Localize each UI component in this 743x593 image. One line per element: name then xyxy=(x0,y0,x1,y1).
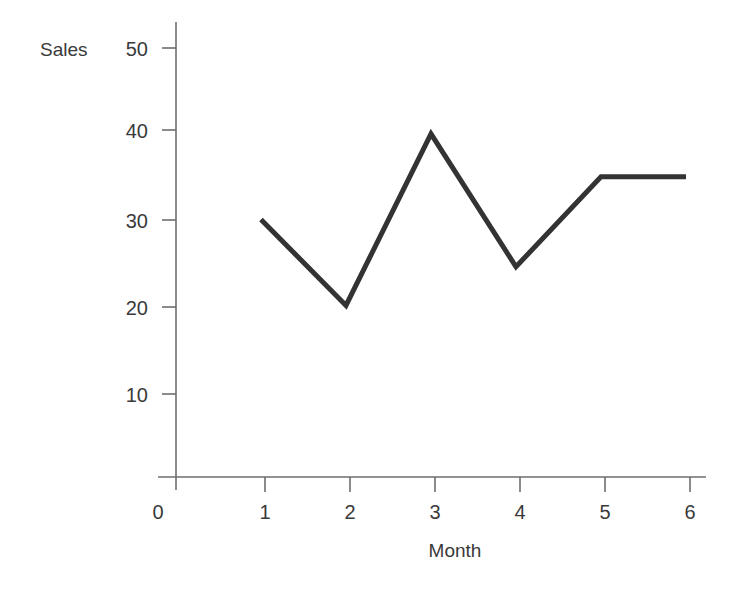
data-series-line xyxy=(261,134,686,306)
y-tick-label-50: 50 xyxy=(126,38,148,60)
origin-label: 0 xyxy=(152,501,163,523)
y-tick-label-20: 20 xyxy=(126,297,148,319)
y-axis-title: Sales xyxy=(40,39,88,60)
x-axis-tick-labels: 1 2 3 4 5 6 xyxy=(259,501,695,523)
y-tick-label-30: 30 xyxy=(126,210,148,232)
x-tick-label-5: 5 xyxy=(599,501,610,523)
y-axis-ticks xyxy=(162,48,176,394)
x-axis-ticks xyxy=(265,477,690,492)
x-axis-title: Month xyxy=(429,540,482,561)
x-tick-label-4: 4 xyxy=(514,501,525,523)
line-chart: 50 40 30 20 10 1 2 3 4 5 6 0 Sales Month xyxy=(0,0,743,593)
x-tick-label-2: 2 xyxy=(344,501,355,523)
x-tick-label-6: 6 xyxy=(684,501,695,523)
y-tick-label-40: 40 xyxy=(126,120,148,142)
x-tick-label-3: 3 xyxy=(429,501,440,523)
y-axis-tick-labels: 50 40 30 20 10 xyxy=(126,38,148,406)
y-tick-label-10: 10 xyxy=(126,384,148,406)
axis-lines xyxy=(158,22,706,490)
x-tick-label-1: 1 xyxy=(259,501,270,523)
chart-canvas: 50 40 30 20 10 1 2 3 4 5 6 0 Sales Month xyxy=(0,0,743,593)
